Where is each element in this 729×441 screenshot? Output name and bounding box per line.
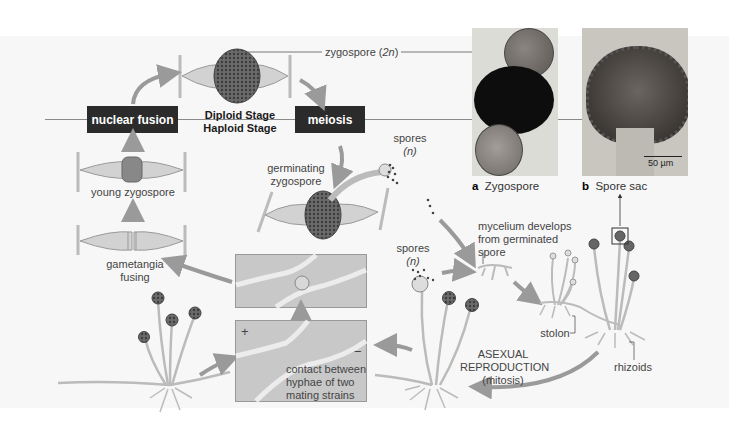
mature-sporangiophores-icon <box>585 228 645 348</box>
spores-mid-label: spores (n) <box>395 242 431 268</box>
mycelium-icon <box>478 265 512 280</box>
mycelium-label: mycelium develops from germinated spore <box>478 220 572 259</box>
plus-strain-label: + <box>241 325 249 338</box>
spores-top-label: spores (n) <box>392 132 428 158</box>
young-sporangiophores-icon <box>540 250 620 325</box>
contact-inset: + − contact between hyphae of two mating… <box>235 320 367 402</box>
asexual-reproduction-label: ASEXUAL REPRODUCTION (mitosis) <box>460 348 546 387</box>
germinating-zygospore-label: germinating zygospore <box>263 162 329 188</box>
minus-strain-label: − <box>354 345 362 358</box>
stolon-label: stolon <box>540 327 570 340</box>
scale-bar-label: 50 µm <box>648 158 673 168</box>
photo-zygospore-body <box>474 66 554 134</box>
fusion-inset <box>235 254 367 308</box>
spore-sac-photo: 50 µm <box>582 28 688 176</box>
rhizoids-label: rhizoids <box>608 361 658 374</box>
gametangia-fusing-icon <box>78 225 185 255</box>
photo-stalk <box>616 128 654 176</box>
mature-zygospore-icon <box>180 49 290 103</box>
contact-label: contact between hyphae of two mating str… <box>286 363 366 402</box>
spore-dots-icon <box>387 164 435 215</box>
gametangia-fusing-label: gametangia fusing <box>100 258 170 284</box>
zygospore-2n-label: zygospore (2n) <box>322 46 401 59</box>
zygospore-photo <box>472 28 558 176</box>
scale-bar <box>644 156 682 157</box>
center-sporangiophore-icon <box>375 269 479 410</box>
zygospore-caption: a Zygospore <box>472 180 539 192</box>
spore-sac-caption: b Spore sac <box>582 180 647 192</box>
left-sporangiophore-icon <box>58 292 230 412</box>
young-zygospore-label: young zygospore <box>88 186 178 199</box>
photo-suspensor-bottom <box>475 124 523 176</box>
